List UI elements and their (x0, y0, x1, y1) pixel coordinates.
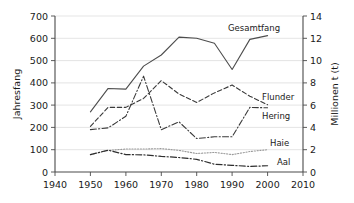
series-label-flunder: Flunder (262, 92, 295, 102)
chart-canvas: 700 600 500 400 300 200 100 0 14 12 10 8… (0, 0, 354, 203)
series-labels-group: Gesamtfang Flunder Hering Haie Aal (228, 23, 295, 167)
x-label-1990: 1990 (220, 179, 244, 190)
y-left-label-100: 100 (30, 144, 48, 155)
y-right-label-2: 2 (310, 144, 316, 155)
series-flunder (90, 81, 267, 127)
y-left-label-400: 400 (30, 77, 48, 88)
y-right-label-0: 0 (310, 167, 316, 178)
x-label-2010: 2010 (291, 179, 315, 190)
y-axis-right-ticks (303, 16, 307, 172)
series-gesamtfang (90, 36, 267, 112)
x-label-1980: 1980 (185, 179, 209, 190)
y-left-tick-labels: 700 600 500 400 300 200 100 0 (30, 11, 48, 178)
y-axis-left-ticks (51, 16, 55, 172)
y-right-tick-labels: 14 12 10 8 6 4 2 0 (310, 11, 322, 178)
x-label-1960: 1960 (114, 179, 138, 190)
y-right-label-4: 4 (310, 122, 316, 133)
series-label-haie: Haie (270, 138, 289, 148)
series-label-aal: Aal (277, 157, 290, 167)
y-left-label-0: 0 (42, 167, 48, 178)
y-right-label-12: 12 (310, 33, 322, 44)
y-left-label-700: 700 (30, 11, 48, 22)
y-right-label-14: 14 (310, 11, 322, 22)
y-right-label-10: 10 (310, 55, 322, 66)
x-label-1950: 1950 (78, 179, 102, 190)
series-label-hering: Hering (262, 111, 290, 121)
y-left-label-200: 200 (30, 122, 48, 133)
x-label-1940: 1940 (43, 179, 67, 190)
x-label-1970: 1970 (149, 179, 173, 190)
y-left-label-500: 500 (30, 55, 48, 66)
y-right-label-6: 6 (310, 100, 316, 111)
x-label-2000: 2000 (256, 179, 280, 190)
y-axis-right-title: Millionen t (t) (329, 62, 340, 125)
x-tick-labels: 1940 1950 1960 1970 1980 1990 2000 2010 (43, 179, 315, 190)
fishery-catch-line-chart: 700 600 500 400 300 200 100 0 14 12 10 8… (0, 0, 354, 203)
y-left-label-300: 300 (30, 100, 48, 111)
x-axis-ticks (55, 172, 303, 176)
series-label-gesamtfang: Gesamtfang (228, 23, 280, 33)
y-left-label-600: 600 (30, 33, 48, 44)
y-axis-left-title: Jahresfang (11, 69, 22, 120)
y-right-label-8: 8 (310, 77, 316, 88)
data-series-group (90, 36, 267, 167)
